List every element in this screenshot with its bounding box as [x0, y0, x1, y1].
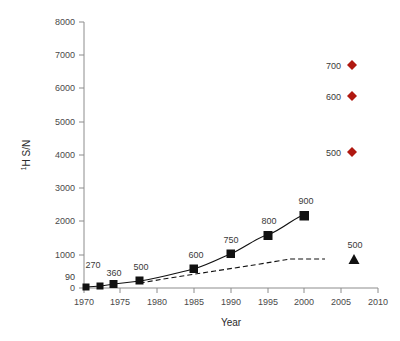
x-tick-label-1985: 1985	[184, 297, 204, 307]
data-point-marker	[227, 250, 236, 259]
x-tick-label-1980: 1980	[147, 297, 167, 307]
x-tick-label-2000: 2000	[294, 297, 314, 307]
y-tick-label-5000: 5000	[55, 117, 75, 127]
y-tick-label-6000: 6000	[55, 83, 75, 93]
data-point-marker-diamond	[347, 147, 357, 157]
highlight-markers	[347, 60, 357, 157]
highlight-label: 700	[326, 61, 341, 71]
data-point-marker	[83, 284, 90, 291]
y-tick-label-7000: 7000	[55, 50, 75, 60]
svg-text:1H S/N: 1H S/N	[20, 140, 32, 170]
highlight-label: 600	[326, 92, 341, 102]
data-point-marker-diamond	[347, 91, 357, 101]
x-tick-label-1975: 1975	[110, 297, 130, 307]
y-axis-ticks	[79, 22, 84, 288]
point-label: 750	[223, 235, 238, 245]
x-tick-label-2005: 2005	[331, 297, 351, 307]
data-point-marker	[110, 280, 118, 288]
data-point-marker	[97, 283, 104, 290]
x-axis-ticks	[84, 288, 378, 293]
point-label: 800	[261, 216, 276, 226]
x-tick-label-1995: 1995	[258, 297, 278, 307]
y-axis-title-main: H S/N	[21, 140, 32, 167]
data-point-marker	[190, 265, 199, 274]
y-axis-title: 1H S/N	[20, 140, 32, 170]
point-label: 360	[106, 268, 121, 278]
data-point-marker-diamond	[347, 60, 357, 70]
point-label: 500	[347, 240, 362, 250]
point-label: 600	[188, 250, 203, 260]
x-tick-label-1970: 1970	[74, 297, 94, 307]
x-axis-title: Year	[221, 317, 242, 328]
x-tick-label-1990: 1990	[221, 297, 241, 307]
y-tick-label-8000: 8000	[55, 17, 75, 27]
point-label: 90	[65, 272, 75, 282]
y-tick-label-4000: 4000	[55, 150, 75, 160]
x-tick-label-2010: 2010	[368, 297, 388, 307]
y-tick-label-3000: 3000	[55, 183, 75, 193]
data-point-marker	[136, 277, 144, 285]
data-point-marker-triangle	[349, 254, 360, 264]
point-label: 270	[85, 260, 100, 270]
chart-plot-area: 8000 7000 6000 5000 4000 3000 2000 1000 …	[0, 0, 400, 341]
y-tick-label-1000: 1000	[55, 250, 75, 260]
series-dashed-line	[140, 259, 325, 283]
data-point-marker	[300, 211, 310, 221]
y-tick-label-0: 0	[70, 283, 75, 293]
highlight-label: 500	[326, 148, 341, 158]
data-point-marker	[264, 231, 273, 240]
point-label: 500	[133, 262, 148, 272]
chart-figure: 8000 7000 6000 5000 4000 3000 2000 1000 …	[0, 0, 400, 341]
point-label: 900	[298, 196, 313, 206]
y-tick-label-2000: 2000	[55, 216, 75, 226]
